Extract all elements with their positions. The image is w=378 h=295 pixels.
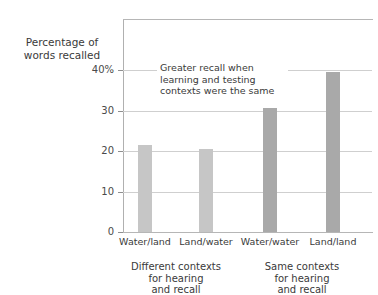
y-axis-tick-label: 10	[72, 187, 114, 197]
chart-annotation: Greater recall when learning and testing…	[160, 62, 288, 97]
x-axis-group-label-line-2: for hearing	[116, 273, 236, 285]
y-axis-tick-label: 40%	[72, 65, 114, 75]
annotation-line-3: contexts were the same	[160, 85, 288, 97]
annotation-line-1: Greater recall when	[160, 62, 288, 74]
x-axis-line	[123, 232, 373, 233]
y-axis-title-line-1: Percentage of	[14, 36, 110, 49]
y-axis-tick-label: 20	[72, 146, 114, 156]
annotation-line-2: learning and testing	[160, 74, 288, 86]
y-axis-tick-mark	[118, 232, 123, 233]
x-axis-group-label: Different contextsfor hearingand recall	[116, 261, 236, 295]
y-axis-tick-label: 30	[72, 106, 114, 116]
x-axis-group-label-line-1: Same contexts	[242, 261, 362, 273]
x-axis-category-label: Land/land	[293, 236, 373, 247]
bar	[138, 145, 152, 232]
y-axis-title: Percentage of words recalled	[14, 36, 110, 62]
y-axis-title-line-2: words recalled	[14, 49, 110, 62]
x-axis-group-label-line-3: and recall	[242, 284, 362, 295]
x-axis-group-label-line-3: and recall	[116, 284, 236, 295]
bar	[326, 72, 340, 232]
bar-chart-figure: Percentage of words recalled 010203040% …	[0, 0, 378, 295]
x-axis-group-label: Same contextsfor hearingand recall	[242, 261, 362, 295]
bar	[199, 149, 213, 232]
x-axis-group-label-line-2: for hearing	[242, 273, 362, 285]
bars-layer	[123, 20, 372, 232]
x-axis-group-label-line-1: Different contexts	[116, 261, 236, 273]
bar	[263, 108, 277, 232]
